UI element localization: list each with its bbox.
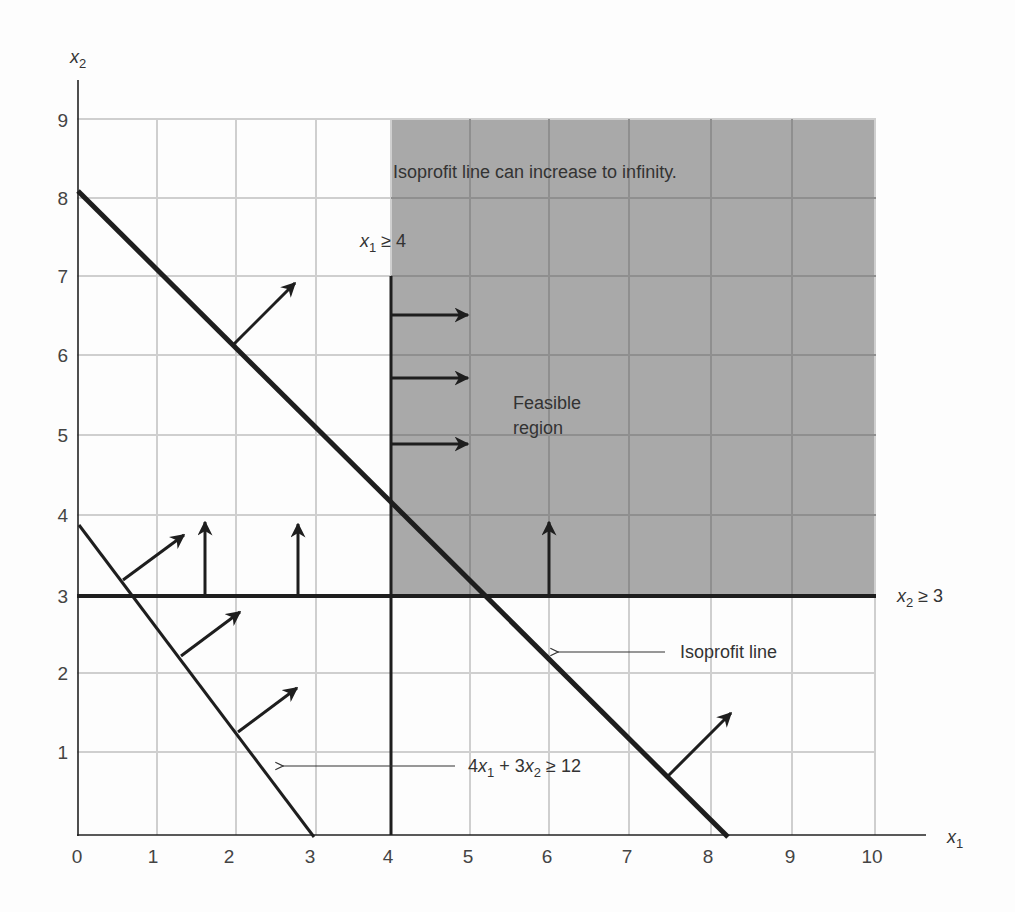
constraint-label: 4x1 + 3x2 ≥ 12: [468, 756, 581, 780]
y-tick: 4: [57, 505, 68, 526]
y-axis-label: x2: [69, 47, 86, 71]
infinity-note: Isoprofit line can increase to infinity.: [393, 162, 677, 182]
x-tick: 9: [785, 846, 796, 867]
x-tick-labels: 0 1 2 3 4 5 6 7 8 9 10: [72, 846, 883, 867]
x-tick: 7: [622, 846, 633, 867]
feasible-region-label: Feasible: [513, 393, 581, 413]
x-tick: 4: [383, 846, 394, 867]
x-tick: 0: [72, 846, 83, 867]
y-tick: 6: [57, 345, 68, 366]
y-tick: 5: [57, 425, 68, 446]
feasible-region-shade: [391, 119, 876, 596]
x-tick: 10: [861, 846, 882, 867]
x2-constraint-label: x2 ≥ 3: [896, 586, 943, 610]
isoprofit-label: Isoprofit line: [680, 642, 777, 662]
x-tick: 6: [542, 846, 553, 867]
lp-graph: 1 2 3 4 5 6 7 8 9 0 1 2 3 4 5 6 7 8 9 10…: [0, 0, 1015, 912]
constraint-4x1-3x2-line: [79, 525, 314, 837]
y-tick: 3: [57, 586, 68, 607]
x-tick: 2: [224, 846, 235, 867]
x-tick: 3: [305, 846, 316, 867]
x-tick: 5: [463, 846, 474, 867]
y-tick: 1: [57, 742, 68, 763]
y-tick: 9: [57, 110, 68, 131]
y-tick-labels: 1 2 3 4 5 6 7 8 9: [57, 110, 68, 763]
y-tick: 8: [57, 188, 68, 209]
y-tick: 7: [57, 266, 68, 287]
x-axis-label: x1: [946, 827, 963, 851]
y-tick: 2: [57, 663, 68, 684]
x-tick: 1: [148, 846, 159, 867]
x-tick: 8: [703, 846, 714, 867]
feasible-region-label-2: region: [513, 418, 563, 438]
